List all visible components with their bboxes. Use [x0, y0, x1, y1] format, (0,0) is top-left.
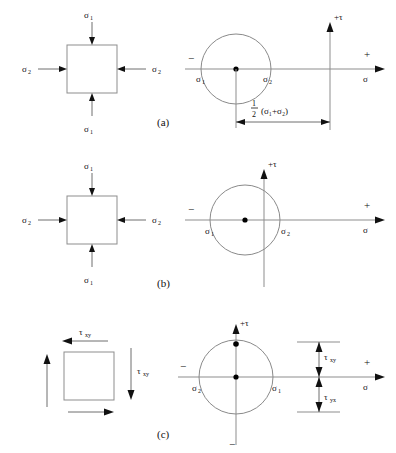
shear-arrowhead-lower-top-c: [316, 377, 323, 387]
element-bottom-sub-a: 1: [90, 129, 93, 135]
sigma2-point-label-b: σ: [281, 226, 286, 236]
stress-element-square-b: [67, 196, 117, 244]
sigma2-point-label-a: σ: [263, 74, 268, 84]
sigma1-point-label-c: σ: [272, 383, 277, 393]
sigma-axis-arrowhead-c: [375, 374, 385, 381]
arrowhead-right-b: [117, 217, 125, 223]
element-top-label-b: σ: [84, 161, 89, 171]
shear-arrowhead-top-c: [62, 338, 72, 345]
element-top-sub-c: xy: [85, 332, 91, 338]
shear-arrowhead-upper-bottom-c: [316, 367, 323, 377]
panel-a-svg: σ 1 σ 1 σ 2 σ 2 (a) − + σ +τ σ 1 σ 2 1: [0, 0, 396, 151]
element-left-label-b: σ: [22, 215, 27, 225]
shear-upper-sub-c: xy: [330, 357, 336, 363]
sigma-plus-sign-b: +: [364, 199, 370, 211]
sigma-axis-arrowhead-a: [375, 66, 385, 73]
element-left-sub-b: 2: [28, 220, 31, 226]
arrowhead-right-a: [117, 66, 125, 72]
circle-top-dot-c: [233, 341, 239, 347]
panel-b-svg: σ 1 σ 1 σ 2 σ 2 (b) − + σ +τ σ 1 σ 2: [0, 151, 396, 302]
sigma-minus-sign-a: −: [188, 52, 194, 64]
shear-upper-label-c: τ: [324, 352, 328, 362]
arrowhead-bottom-b: [89, 244, 95, 252]
dimension-numerator-a: 1: [252, 99, 256, 108]
arrowhead-bottom-a: [89, 93, 95, 101]
stress-element-square-c: [64, 352, 114, 400]
element-left-label-a: σ: [22, 64, 27, 74]
sigma-axis-label-c: σ: [363, 382, 368, 392]
element-right-sub-b: 2: [158, 220, 161, 226]
arrowhead-left-a: [59, 66, 67, 72]
dimension-arrowhead-left-a: [236, 119, 245, 125]
sigma-axis-arrowhead-b: [375, 217, 385, 224]
element-right-label-c: τ: [137, 366, 141, 376]
element-top-label-a: σ: [84, 10, 89, 20]
tau-axis-arrowhead-a: [327, 22, 334, 32]
shear-arrowhead-upper-top-c: [316, 342, 323, 352]
sigma-axis-label-b: σ: [363, 225, 368, 235]
panel-label-b: (b): [157, 277, 170, 290]
shear-arrowhead-bottom-c: [104, 409, 114, 416]
arrowhead-top-a: [89, 37, 95, 45]
shear-lower-label-c: τ: [324, 392, 328, 402]
sigma2-point-sub-a: 2: [269, 79, 272, 85]
circle-center-dot-c: [233, 374, 238, 379]
element-top-sub-b: 1: [90, 166, 93, 172]
shear-arrowhead-right-c: [128, 390, 135, 400]
element-top-label-c: τ: [79, 327, 83, 337]
sigma1-point-label-a: σ: [196, 74, 201, 84]
dimension-expression-a: (σ₁+σ₂): [261, 106, 288, 116]
sigma-plus-sign-a: +: [364, 48, 370, 60]
stress-element-square-a: [67, 45, 117, 93]
element-left-sub-a: 2: [28, 69, 31, 75]
tau-axis-label-c: +τ: [240, 318, 249, 328]
tau-axis-arrowhead-c: [233, 324, 240, 334]
shear-arrowhead-left-c: [44, 354, 51, 364]
element-right-sub-c: xy: [143, 371, 149, 377]
element-right-label-b: σ: [152, 215, 157, 225]
element-bottom-sub-b: 1: [90, 280, 93, 286]
sigma-plus-sign-c: +: [364, 356, 370, 368]
panel-label-a: (a): [157, 116, 170, 129]
panel-label-c: (c): [157, 428, 170, 441]
sigma-minus-sign-c: −: [180, 360, 186, 372]
arrowhead-top-b: [89, 188, 95, 196]
arrowhead-left-b: [59, 217, 67, 223]
dimension-arrowhead-right-a: [321, 119, 330, 125]
dimension-denominator-a: 2: [252, 110, 256, 119]
sigma-minus-sign-b: −: [188, 203, 194, 215]
tau-axis-arrowhead-b: [261, 169, 268, 179]
sigma1-point-sub-a: 1: [202, 79, 205, 85]
panel-b: σ 1 σ 1 σ 2 σ 2 (b) − + σ +τ σ 1 σ 2: [0, 151, 396, 302]
element-bottom-label-a: σ: [84, 124, 89, 134]
shear-arrowhead-lower-bottom-c: [316, 402, 323, 412]
tau-axis-label-b: +τ: [268, 159, 277, 169]
panel-c: τ xy τ xy (c) − + σ +τ − σ 2 σ 1 τ: [0, 302, 396, 453]
sigma1-point-sub-c: 1: [278, 388, 281, 394]
sigma2-point-sub-b: 2: [287, 231, 290, 237]
sigma2-point-label-c: σ: [192, 383, 197, 393]
sigma2-point-sub-c: 2: [198, 388, 201, 394]
shear-lower-sub-c: yx: [330, 397, 336, 403]
tau-axis-label-a: +τ: [334, 12, 343, 22]
panel-c-svg: τ xy τ xy (c) − + σ +τ − σ 2 σ 1 τ: [0, 302, 396, 453]
element-bottom-label-b: σ: [84, 275, 89, 285]
element-top-sub-a: 1: [90, 15, 93, 21]
sigma1-point-label-b: σ: [205, 226, 210, 236]
sigma1-point-sub-b: 1: [211, 231, 214, 237]
panel-a: σ 1 σ 1 σ 2 σ 2 (a) − + σ +τ σ 1 σ 2 1: [0, 0, 396, 151]
sigma-axis-label-a: σ: [363, 74, 368, 84]
element-right-label-a: σ: [152, 64, 157, 74]
circle-center-dot-b: [242, 217, 247, 222]
element-right-sub-a: 2: [158, 69, 161, 75]
tau-minus-sign-c: −: [229, 438, 235, 450]
